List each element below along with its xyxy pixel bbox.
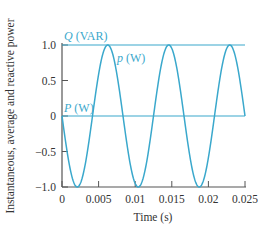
x-tick-label: 0.015 [159, 193, 185, 205]
power-chart: Instantaneous, average and reactive powe… [0, 0, 272, 239]
y-axis-title: Instantaneous, average and reactive powe… [4, 18, 17, 213]
y-tick-label: 0 [50, 110, 56, 122]
label-p-instantaneous: p (W) [116, 51, 145, 65]
plot-area: 1.00.50−0.5−1.000.0050.010.0150.020.025Q… [35, 29, 258, 205]
y-tick-label: 1.0 [42, 39, 57, 51]
y-axis-title-text: Instantaneous, average and reactive powe… [4, 18, 17, 213]
label-p-average: P (W) [63, 101, 94, 115]
x-tick-label: 0 [59, 193, 65, 205]
y-tick-label: 0.5 [42, 75, 57, 87]
label-q-var: Q (VAR) [64, 29, 107, 43]
y-tick-label: −1.0 [35, 181, 56, 193]
x-axis-title: Time (s) [134, 211, 173, 224]
y-tick-label: −0.5 [35, 146, 56, 158]
x-tick-label: 0.025 [232, 193, 258, 205]
x-tick-label: 0.005 [86, 193, 112, 205]
x-tick-label: 0.01 [125, 193, 145, 205]
x-tick-label: 0.02 [198, 193, 218, 205]
